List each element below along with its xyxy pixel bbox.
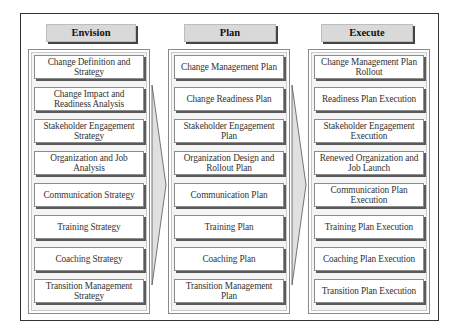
plan-item: Change Management Plan — [174, 55, 284, 79]
envision-item: Organization and Job Analysis — [34, 151, 144, 175]
plan-item: Transition Management Plan — [174, 279, 284, 303]
execute-item: Stakeholder Engagement Execution — [314, 119, 424, 143]
plan-item: Coaching Plan — [174, 247, 284, 271]
execute-item: Communication Plan Execution — [314, 183, 424, 207]
plan-item: Change Readiness Plan — [174, 87, 284, 111]
envision-item: Transition Management Strategy — [34, 279, 144, 303]
plan-item: Training Plan — [174, 215, 284, 239]
envision-item: Stakeholder Engagement Strategy — [34, 119, 144, 143]
plan-item: Stakeholder Engagement Plan — [174, 119, 284, 143]
column-panel-plan: Change Management Plan Change Readiness … — [168, 49, 290, 314]
arrow-right-icon — [291, 85, 307, 285]
envision-item: Communication Strategy — [34, 183, 144, 207]
arrow-right-icon — [151, 85, 167, 285]
column-panel-execute: Change Management Plan Rollout Readiness… — [308, 49, 430, 314]
envision-item: Training Strategy — [34, 215, 144, 239]
plan-item: Communication Plan — [174, 183, 284, 207]
column-header-envision: Envision — [46, 24, 136, 42]
execute-item: Training Plan Execution — [314, 215, 424, 239]
column-panel-envision: Change Definition and Strategy Change Im… — [28, 49, 150, 314]
envision-item: Change Impact and Readiness Analysis — [34, 87, 144, 111]
execute-item: Transition Plan Execution — [314, 279, 424, 303]
execute-item: Coaching Plan Execution — [314, 247, 424, 271]
column-header-execute: Execute — [321, 24, 413, 42]
execute-item: Change Management Plan Rollout — [314, 55, 424, 79]
execute-item: Readiness Plan Execution — [314, 87, 424, 111]
envision-item: Coaching Strategy — [34, 247, 144, 271]
column-header-plan: Plan — [184, 24, 276, 42]
plan-item: Organization Design and Rollout Plan — [174, 151, 284, 175]
execute-item: Renewed Organization and Job Launch — [314, 151, 424, 175]
envision-item: Change Definition and Strategy — [34, 55, 144, 79]
